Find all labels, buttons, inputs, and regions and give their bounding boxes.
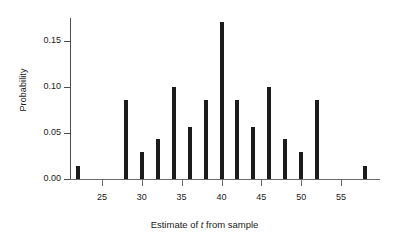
bar bbox=[283, 139, 287, 179]
bar bbox=[188, 127, 192, 179]
x-axis-line bbox=[70, 179, 380, 180]
bar bbox=[299, 152, 303, 179]
x-axis-tick-label: 35 bbox=[167, 192, 197, 202]
x-axis-tick-mark bbox=[182, 180, 183, 186]
plot-area bbox=[70, 18, 373, 179]
bar bbox=[76, 166, 80, 179]
bar bbox=[172, 87, 176, 179]
bar bbox=[156, 139, 160, 179]
x-axis-label: Estimate of t from sample bbox=[0, 219, 409, 230]
bar bbox=[267, 87, 271, 179]
x-axis-label-suffix: from sample bbox=[203, 219, 258, 230]
x-axis-tick-mark bbox=[142, 180, 143, 186]
x-axis-label-prefix: Estimate of bbox=[151, 219, 201, 230]
bar bbox=[124, 100, 128, 179]
x-axis-tick-label: 30 bbox=[127, 192, 157, 202]
x-axis-tick-mark bbox=[102, 180, 103, 186]
x-axis-tick-mark bbox=[222, 180, 223, 186]
x-axis-tick-label: 55 bbox=[326, 192, 356, 202]
x-axis-tick-mark bbox=[341, 180, 342, 186]
y-axis-tick-label: 0.10 bbox=[21, 82, 61, 91]
bar bbox=[140, 152, 144, 179]
bar bbox=[220, 22, 224, 179]
y-axis-tick-label: 0.00 bbox=[21, 174, 61, 183]
bar bbox=[315, 100, 319, 179]
probability-distribution-chart: Probability 0.000.050.100.15 25303540455… bbox=[0, 0, 409, 243]
y-axis-tick-mark bbox=[64, 179, 70, 180]
x-axis-tick-label: 25 bbox=[87, 192, 117, 202]
bar bbox=[204, 100, 208, 179]
x-axis-tick-label: 50 bbox=[286, 192, 316, 202]
y-axis-tick-label: 0.15 bbox=[21, 36, 61, 45]
bar bbox=[235, 100, 239, 179]
x-axis-tick-label: 45 bbox=[246, 192, 276, 202]
x-axis-tick-label: 40 bbox=[207, 192, 237, 202]
x-axis-tick-mark bbox=[261, 180, 262, 186]
y-axis-tick-label: 0.05 bbox=[21, 128, 61, 137]
bar bbox=[251, 127, 255, 179]
x-axis-tick-mark bbox=[301, 180, 302, 186]
bar bbox=[363, 166, 367, 179]
